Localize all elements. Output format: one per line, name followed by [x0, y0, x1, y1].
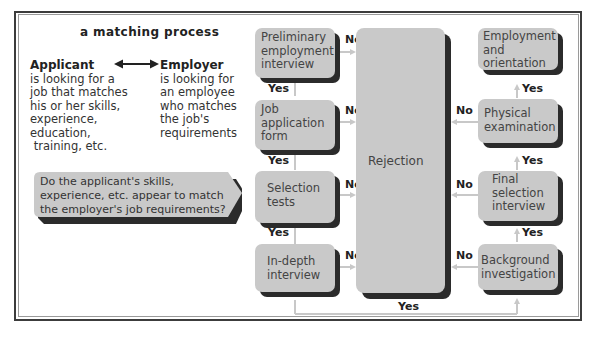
step-physical-examination: Physical examination [478, 99, 558, 143]
step-preliminary-interview: Preliminary employment interview [255, 28, 335, 78]
step-job-application-form: Job application form [255, 100, 335, 150]
step-in-depth-interview: In-depth interview [255, 244, 335, 292]
yes-label: Yes [398, 300, 419, 313]
step-background-investigation: Background investigation [478, 244, 558, 290]
yes-label: Yes [522, 154, 543, 167]
yes-label: Yes [268, 82, 289, 95]
yes-label: Yes [268, 226, 289, 239]
yes-label: Yes [522, 226, 543, 239]
no-label: No [456, 104, 473, 117]
step-employment-orientation: Employment and orientation [478, 28, 558, 70]
rejection-label: Rejection [368, 154, 423, 168]
step-final-selection-interview: Final selection interview [478, 171, 558, 221]
no-label: No [456, 178, 473, 191]
yes-label: Yes [268, 154, 289, 167]
yes-label: Yes [522, 82, 543, 95]
step-selection-tests: Selection tests [255, 171, 335, 223]
no-label: No [456, 249, 473, 262]
